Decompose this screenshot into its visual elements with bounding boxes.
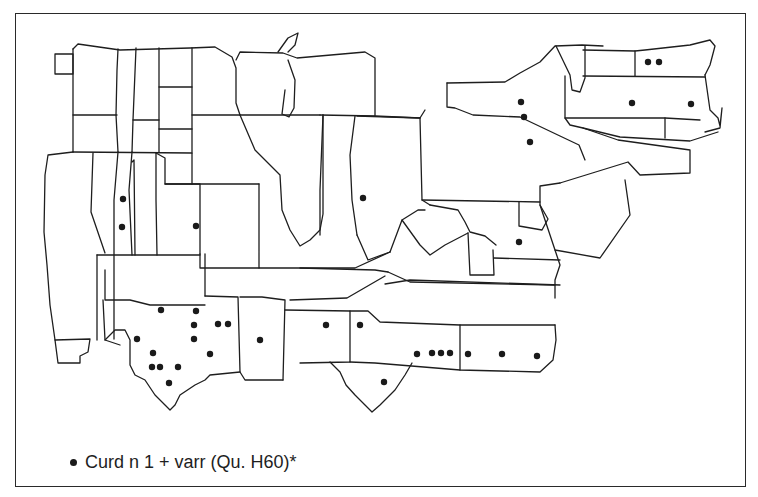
survey-point-dot <box>629 100 635 106</box>
survey-point-dot <box>516 239 522 245</box>
survey-point-dot <box>134 336 140 342</box>
survey-point-dot <box>465 351 471 357</box>
survey-points <box>119 59 694 386</box>
survey-point-dot <box>360 195 366 201</box>
survey-point-dot <box>191 322 197 328</box>
survey-point-dot <box>429 350 435 356</box>
survey-point-dot <box>193 223 199 229</box>
survey-point-dot <box>414 351 420 357</box>
survey-point-dot <box>257 337 263 343</box>
survey-point-dot <box>150 350 156 356</box>
survey-point-dot <box>193 308 199 314</box>
survey-point-dot <box>323 322 329 328</box>
survey-point-dot <box>688 101 694 107</box>
survey-point-dot <box>215 321 221 327</box>
legend-label: Curd n 1 + varr (Qu. H60)* <box>85 452 297 473</box>
survey-point-dot <box>166 380 172 386</box>
survey-point-dot <box>381 379 387 385</box>
survey-point-dot <box>438 350 444 356</box>
survey-point-dot <box>447 350 453 356</box>
survey-point-dot <box>518 99 524 105</box>
survey-point-dot <box>645 59 651 65</box>
survey-point-dot <box>225 321 231 327</box>
survey-point-dot <box>158 307 164 313</box>
survey-point-dot <box>175 364 181 370</box>
survey-point-dot <box>527 139 533 145</box>
county-boundaries <box>44 33 722 412</box>
survey-point-dot <box>149 364 155 370</box>
survey-point-dot <box>534 353 540 359</box>
survey-point-dot <box>207 351 213 357</box>
survey-point-dot <box>499 351 505 357</box>
county-map <box>0 0 758 497</box>
survey-point-dot <box>191 336 197 342</box>
survey-point-dot <box>521 114 527 120</box>
survey-point-dot <box>157 364 163 370</box>
survey-point-dot <box>656 59 662 65</box>
survey-point-dot <box>119 224 125 230</box>
legend-dot-icon <box>70 459 77 466</box>
survey-point-dot <box>357 322 363 328</box>
survey-point-dot <box>120 196 126 202</box>
map-legend: Curd n 1 + varr (Qu. H60)* <box>70 452 297 473</box>
